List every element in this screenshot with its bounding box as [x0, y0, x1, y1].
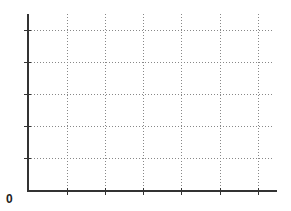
axes	[24, 14, 277, 195]
gridlines	[28, 14, 272, 191]
empty-grid-chart	[0, 0, 291, 211]
origin-label: 0	[6, 192, 13, 206]
